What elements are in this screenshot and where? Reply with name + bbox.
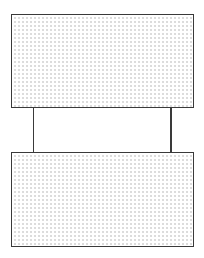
left-connector [33, 107, 35, 153]
top-box [11, 14, 194, 108]
diagram-canvas [0, 0, 204, 258]
right-connector [170, 107, 172, 153]
bottom-box [11, 152, 194, 247]
